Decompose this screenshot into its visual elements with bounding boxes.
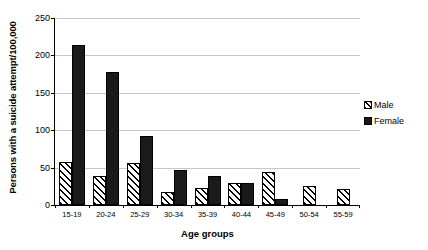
bar-male-25-29	[127, 163, 140, 205]
bar-male-55-59	[337, 189, 350, 205]
x-tick-cell: 50-54	[292, 205, 326, 225]
x-tick-label: 35-39	[191, 210, 225, 219]
x-tick-label: 45-49	[258, 210, 292, 219]
x-tick-label: 50-54	[292, 210, 326, 219]
bar-group	[191, 18, 225, 205]
y-tick-label: 150	[35, 88, 50, 98]
bar-group	[224, 18, 258, 205]
bar-group	[123, 18, 157, 205]
x-tick-mark	[326, 205, 327, 208]
x-tick-mark	[292, 205, 293, 208]
bar-male-15-19	[59, 162, 72, 205]
bar-female-35-39	[208, 176, 221, 205]
legend-swatch-male-icon	[364, 101, 372, 109]
x-tick-label: 30-34	[157, 210, 191, 219]
bar-chart-figure: Persons with a suicide attempt/100,000 0…	[0, 0, 428, 250]
legend-swatch-female-icon	[364, 117, 372, 125]
bar-group	[258, 18, 292, 205]
x-tick-cell: 55-59	[326, 205, 360, 225]
x-tick-mark	[258, 205, 259, 208]
x-tick-cell: 40-44	[224, 205, 258, 225]
x-tick-cell: 25-29	[123, 205, 157, 225]
x-tick-mark	[123, 205, 124, 208]
bar-group	[157, 18, 191, 205]
bar-female-40-44	[241, 183, 254, 205]
x-axis-ticks: 15-1920-2425-2930-3435-3940-4445-4950-54…	[55, 205, 360, 225]
bar-male-45-49	[262, 172, 275, 205]
x-tick-label: 25-29	[123, 210, 157, 219]
bar-male-20-24	[93, 176, 106, 205]
legend-item-female: Female	[364, 116, 426, 126]
x-tick-cell: 20-24	[89, 205, 123, 225]
y-tick-label: 0	[45, 200, 50, 210]
x-tick-mark	[359, 205, 360, 208]
y-tick-label: 250	[35, 13, 50, 23]
bar-male-30-34	[161, 192, 174, 205]
bar-male-40-44	[228, 183, 241, 205]
chart-legend: Male Female	[364, 100, 426, 132]
x-tick-mark	[89, 205, 90, 208]
x-tick-cell: 30-34	[157, 205, 191, 225]
legend-label-female: Female	[374, 116, 404, 126]
x-tick-cell: 35-39	[191, 205, 225, 225]
x-tick-cell: 45-49	[258, 205, 292, 225]
y-tick-label: 200	[35, 50, 50, 60]
bar-female-30-34	[174, 170, 187, 205]
x-tick-mark	[157, 205, 158, 208]
bar-male-50-54	[303, 186, 316, 205]
y-axis-title: Persons with a suicide attempt/100,000	[2, 0, 22, 215]
legend-label-male: Male	[374, 100, 394, 110]
bar-group	[55, 18, 89, 205]
bar-female-25-29	[140, 136, 153, 205]
bar-group	[89, 18, 123, 205]
bar-female-20-24	[106, 72, 119, 205]
x-tick-label: 15-19	[55, 210, 89, 219]
bar-female-15-19	[72, 45, 85, 205]
plot-area: 050100150200250	[55, 18, 360, 205]
bar-male-35-39	[195, 188, 208, 205]
legend-item-male: Male	[364, 100, 426, 110]
bars-layer	[55, 18, 360, 205]
bar-group	[326, 18, 360, 205]
x-tick-label: 20-24	[89, 210, 123, 219]
bar-group	[292, 18, 326, 205]
x-tick-mark	[191, 205, 192, 208]
x-axis-title: Age groups	[55, 228, 360, 239]
x-tick-label: 40-44	[224, 210, 258, 219]
x-tick-label: 55-59	[326, 210, 360, 219]
x-tick-cell: 15-19	[55, 205, 89, 225]
y-tick-label: 100	[35, 125, 50, 135]
x-tick-mark	[55, 205, 56, 208]
y-axis-title-text: Persons with a suicide attempt/100,000	[7, 21, 18, 194]
y-tick-label: 50	[40, 163, 50, 173]
x-tick-mark	[224, 205, 225, 208]
